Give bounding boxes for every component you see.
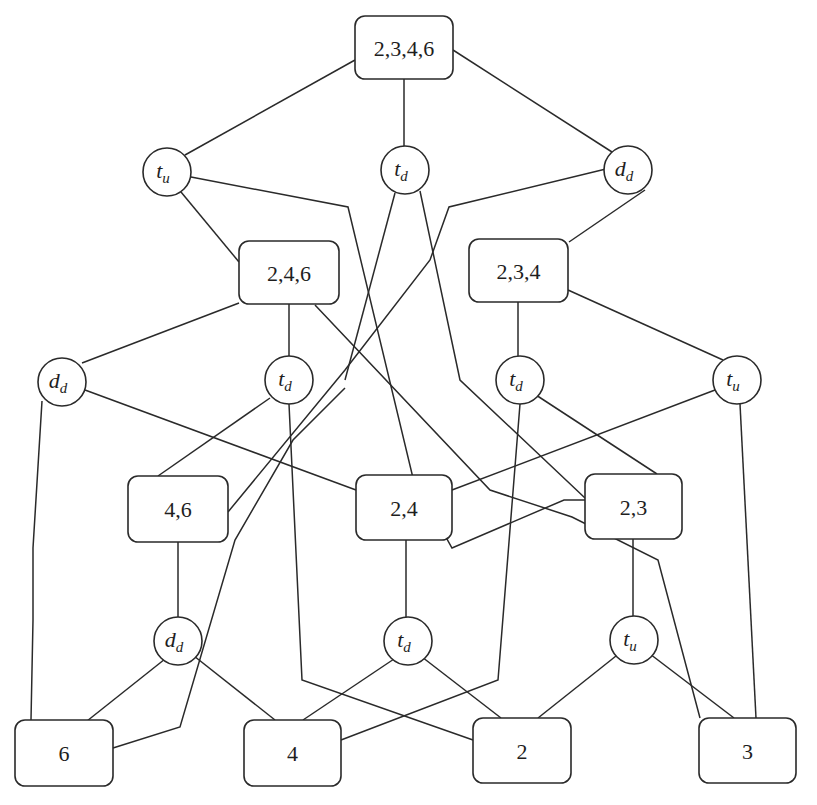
edge: [453, 50, 612, 152]
edge: [420, 191, 585, 498]
edge: [569, 190, 645, 242]
edge: [345, 193, 395, 380]
operator-node-t-d: td: [381, 146, 429, 194]
set-node-s4: 4: [244, 720, 341, 786]
set-lattice-diagram: 2,3,4,62,4,62,3,44,62,42,36423tutdddddtd…: [0, 0, 817, 805]
set-node-s46: 4,6: [128, 476, 228, 542]
set-node-label: 2: [517, 739, 528, 764]
set-node-label: 2,3: [620, 495, 648, 520]
edge: [31, 401, 42, 720]
edge: [185, 60, 355, 155]
edge: [303, 659, 394, 720]
edge: [650, 654, 734, 718]
set-node-label: 2,3,4,6: [374, 36, 435, 61]
edge: [289, 404, 473, 740]
set-node-s2: 2: [473, 718, 571, 783]
edge: [228, 168, 610, 512]
operator-node-d-d: dd: [604, 146, 652, 194]
set-node-s23: 2,3: [585, 474, 682, 539]
edge: [158, 398, 270, 476]
operator-node-t-u: tu: [713, 356, 761, 404]
edge: [341, 404, 520, 740]
set-node-label: 2,4,6: [267, 261, 311, 286]
edge: [740, 404, 756, 718]
edge: [113, 388, 345, 748]
edge: [87, 659, 165, 721]
set-node-s24: 2,4: [356, 475, 452, 540]
set-node-label: 3: [742, 739, 753, 764]
set-node-label: 2,3,4: [497, 259, 541, 284]
set-node-label: 6: [59, 741, 70, 766]
edge: [181, 192, 239, 262]
operator-node-t-u: tu: [143, 148, 191, 196]
operator-node-t-u: tu: [610, 616, 658, 664]
set-node-label: 4: [287, 741, 298, 766]
edge: [82, 303, 239, 363]
operator-node-t-d: td: [496, 356, 544, 404]
operator-node-d-d: dd: [154, 617, 202, 665]
edge: [422, 657, 501, 718]
edge: [568, 290, 723, 360]
set-node-s6: 6: [15, 720, 113, 786]
operator-node-t-d: td: [384, 617, 432, 665]
set-node-label: 4,6: [164, 497, 192, 522]
edge: [194, 656, 275, 720]
operator-node-t-d: td: [265, 356, 313, 404]
set-node-label: 2,4: [390, 496, 418, 521]
set-node-s246: 2,4,6: [239, 241, 339, 304]
set-node-s234: 2,3,4: [469, 239, 568, 302]
set-node-s2346: 2,3,4,6: [355, 16, 453, 79]
set-node-s3: 3: [699, 718, 796, 783]
operator-node-d-d: dd: [38, 358, 86, 406]
edge: [538, 656, 616, 718]
